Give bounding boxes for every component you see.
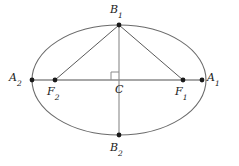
label-b1-text: B — [110, 3, 118, 16]
label-c: C — [115, 84, 123, 95]
label-f2: F2 — [47, 86, 59, 97]
point-a2 — [30, 78, 35, 83]
ellipse-figure: B1 B2 A2 A1 F2 F1 C — [0, 0, 239, 166]
point-b1 — [117, 23, 122, 28]
label-a2: A2 — [9, 72, 22, 83]
right-angle-marker-icon — [111, 72, 119, 80]
label-f2-subscript: 2 — [55, 93, 60, 102]
label-a2-subscript: 2 — [17, 79, 22, 88]
segment-b1-f2 — [55, 25, 119, 80]
label-a1-subscript: 1 — [215, 79, 220, 88]
label-a1: A1 — [207, 72, 220, 83]
point-b2 — [117, 133, 122, 138]
label-c-text: C — [115, 83, 123, 96]
label-b2-subscript: 2 — [118, 149, 123, 158]
label-b2: B2 — [110, 142, 123, 153]
label-f1-subscript: 1 — [183, 93, 188, 102]
label-b1: B1 — [110, 4, 123, 15]
label-f2-text: F — [47, 85, 55, 98]
label-a1-text: A — [207, 71, 215, 84]
label-a2-text: A — [9, 71, 17, 84]
point-a1 — [200, 78, 205, 83]
segment-b1-f1 — [119, 25, 183, 80]
label-b1-subscript: 1 — [118, 11, 123, 20]
label-f1-text: F — [175, 85, 183, 98]
label-f1: F1 — [175, 86, 187, 97]
label-b2-text: B — [110, 141, 118, 154]
point-f1 — [181, 78, 186, 83]
point-f2 — [53, 78, 58, 83]
